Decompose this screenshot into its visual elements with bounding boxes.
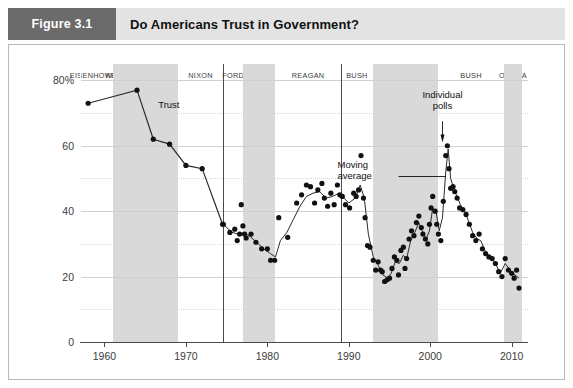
data-point <box>516 285 521 290</box>
x-tick-1990 <box>349 343 350 347</box>
data-point <box>86 101 91 106</box>
data-point <box>227 230 232 235</box>
data-point <box>259 246 264 251</box>
chart-plot-area: TrustIndividualpollsMovingaverage <box>80 64 528 342</box>
figure-title-box: Do Americans Trust in Government? <box>116 8 565 40</box>
data-point <box>343 202 348 207</box>
data-point <box>428 205 433 210</box>
data-point <box>423 236 428 241</box>
data-point <box>167 142 172 147</box>
data-point <box>347 205 352 210</box>
data-point <box>452 189 457 194</box>
data-point <box>308 184 313 189</box>
x-tick-2000 <box>430 343 431 347</box>
figure-title: Do Americans Trust in Government? <box>130 17 359 32</box>
data-point <box>325 204 330 209</box>
data-point <box>332 202 337 207</box>
data-point <box>496 269 501 274</box>
data-point <box>354 194 359 199</box>
data-point <box>253 240 258 245</box>
data-point <box>221 222 226 227</box>
data-point <box>272 258 277 263</box>
data-point <box>328 191 333 196</box>
figure-number: Figure 3.1 <box>31 17 92 31</box>
x-tick-1970 <box>186 343 187 347</box>
data-point <box>239 202 244 207</box>
data-point <box>361 195 366 200</box>
data-point <box>438 238 443 243</box>
data-point <box>455 195 460 200</box>
x-tick-1980 <box>267 343 268 347</box>
data-point <box>434 222 439 227</box>
figure-header: Figure 3.1 Do Americans Trust in Governm… <box>8 8 565 40</box>
data-point <box>235 238 240 243</box>
y-axis-labels: 020406080% <box>38 64 74 342</box>
data-point <box>441 199 446 204</box>
data-point <box>503 256 508 261</box>
data-point <box>232 227 237 232</box>
data-point <box>294 200 299 205</box>
data-point <box>380 269 385 274</box>
data-point <box>493 261 498 266</box>
data-point <box>414 220 419 225</box>
x-tick-label-1960: 1960 <box>93 350 116 362</box>
y-tick-label-40: 40 <box>62 205 74 217</box>
data-point <box>445 143 450 148</box>
y-tick-label-0: 0 <box>68 336 74 348</box>
y-tick-label-20: 20 <box>62 271 74 283</box>
y-tick-label-80: 80% <box>53 74 74 86</box>
data-point <box>356 187 361 192</box>
data-point <box>299 192 304 197</box>
data-point <box>420 231 425 236</box>
data-point <box>396 272 401 277</box>
data-point <box>358 153 363 158</box>
data-point <box>402 266 407 271</box>
data-point <box>401 245 406 250</box>
data-point <box>151 137 156 142</box>
data-point <box>315 187 320 192</box>
data-point <box>514 267 519 272</box>
data-point <box>373 267 378 272</box>
annotation-trust: Trust <box>158 99 179 110</box>
data-point <box>512 276 517 281</box>
data-point <box>362 215 367 220</box>
data-point <box>499 274 504 279</box>
data-point <box>473 238 478 243</box>
data-point <box>450 184 455 189</box>
data-point <box>427 222 432 227</box>
y-axis-line <box>80 64 81 343</box>
data-point <box>443 153 448 158</box>
figure-container: Figure 3.1 Do Americans Trust in Governm… <box>0 0 573 388</box>
data-point <box>387 276 392 281</box>
data-point <box>312 200 317 205</box>
data-point <box>463 212 468 217</box>
data-point <box>509 271 514 276</box>
data-point <box>285 235 290 240</box>
data-point <box>425 241 430 246</box>
x-tick-2010 <box>512 343 513 347</box>
data-point <box>183 163 188 168</box>
figure-number-box: Figure 3.1 <box>8 8 116 40</box>
data-point <box>319 181 324 186</box>
series-trust-early-line <box>88 90 222 224</box>
data-point <box>376 259 381 264</box>
data-point <box>433 209 438 214</box>
data-point <box>446 166 451 171</box>
data-point <box>134 88 139 93</box>
data-point <box>340 194 345 199</box>
data-point <box>237 231 242 236</box>
data-point <box>265 246 270 251</box>
data-point <box>244 235 249 240</box>
data-point <box>406 236 411 241</box>
data-point <box>467 222 472 227</box>
x-tick-label-1990: 1990 <box>337 350 360 362</box>
data-point <box>490 256 495 261</box>
data-point <box>367 245 372 250</box>
data-point <box>419 225 424 230</box>
data-point <box>240 223 245 228</box>
data-point <box>200 166 205 171</box>
x-tick-1960 <box>104 343 105 347</box>
data-point <box>335 182 340 187</box>
annotation-moving-average: Movingaverage <box>338 159 392 181</box>
data-point <box>436 231 441 236</box>
